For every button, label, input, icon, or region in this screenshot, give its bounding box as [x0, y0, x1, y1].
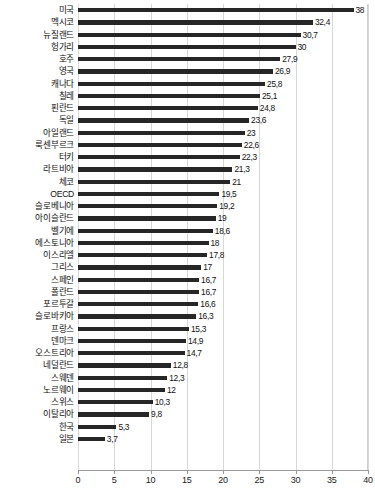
bar-row: 덴마크14,9	[0, 335, 375, 347]
bar	[78, 82, 265, 86]
value-label: 38	[356, 4, 365, 16]
category-label: 독일	[59, 114, 74, 126]
bar	[78, 69, 273, 73]
category-label: 뉴질랜드	[43, 29, 74, 41]
bar-row: 슬로베니아19,2	[0, 200, 375, 212]
bar	[78, 131, 245, 135]
value-label: 14,9	[188, 335, 203, 347]
category-label: 포르투갈	[43, 298, 74, 310]
category-label: 칠레	[59, 90, 74, 102]
x-axis-tick-label: 35	[327, 475, 337, 485]
bar-row: 핀란드24,8	[0, 102, 375, 114]
category-label: 아일랜드	[43, 127, 74, 139]
value-label: 27,9	[282, 53, 297, 65]
bar	[78, 437, 105, 441]
category-label: 덴마크	[51, 335, 74, 347]
category-label: 그리스	[51, 261, 74, 273]
value-label: 32,4	[315, 16, 330, 28]
bar-row: 영국26,9	[0, 65, 375, 77]
bar-row: 스위스10,3	[0, 396, 375, 408]
category-label: 슬로바키아	[35, 310, 74, 322]
bar-row: 미국38	[0, 4, 375, 16]
bar-row: 아이슬란드19	[0, 212, 375, 224]
value-label: 12	[167, 384, 176, 396]
value-label: 5,3	[118, 421, 129, 433]
x-axis-tick-label: 40	[363, 475, 373, 485]
category-label: 아이슬란드	[35, 212, 74, 224]
bar-row: 폴란드16,7	[0, 286, 375, 298]
bar-row: 멕시코32,4	[0, 16, 375, 28]
category-label: 한국	[59, 421, 74, 433]
category-label: 핀란드	[51, 102, 74, 114]
bar	[78, 57, 280, 61]
bar	[78, 265, 201, 269]
value-label: 18	[211, 237, 220, 249]
x-axis-tick	[296, 470, 297, 474]
bar-row: 네덜란드12,8	[0, 359, 375, 371]
bar-row: 체코21	[0, 176, 375, 188]
bar	[78, 388, 165, 392]
bar-row: 슬로바키아16,3	[0, 310, 375, 322]
bar	[78, 302, 198, 306]
bar-row: 일본3,7	[0, 433, 375, 445]
bar-row: 이스라엘17,8	[0, 249, 375, 261]
bar	[78, 143, 242, 147]
value-label: 17	[203, 261, 212, 273]
bar	[78, 253, 207, 257]
bar	[78, 118, 249, 122]
bar	[78, 363, 171, 367]
category-label: 캐나다	[51, 78, 74, 90]
value-label: 22,3	[242, 151, 257, 163]
value-label: 12,3	[169, 372, 184, 384]
x-axis-tick	[368, 470, 369, 474]
x-axis-tick-label: 5	[112, 475, 117, 485]
category-label: 노르웨이	[43, 384, 74, 396]
bar-row: 터키22,3	[0, 151, 375, 163]
value-label: 19,2	[219, 200, 234, 212]
x-axis-tick	[78, 470, 79, 474]
bar-row: 호주27,9	[0, 53, 375, 65]
value-label: 14,7	[187, 347, 202, 359]
x-axis-tick-label: 10	[146, 475, 156, 485]
x-axis-tick-label: 0	[76, 475, 81, 485]
bar-row: 포르투갈16,6	[0, 298, 375, 310]
value-label: 23,6	[251, 114, 266, 126]
value-label: 16,6	[200, 298, 215, 310]
category-label: 룩센부르크	[35, 139, 74, 151]
x-axis-tick	[259, 470, 260, 474]
x-axis-tick-label: 20	[218, 475, 228, 485]
bar	[78, 45, 296, 49]
bar	[78, 204, 217, 208]
bar	[78, 33, 301, 37]
value-label: 25,1	[262, 90, 277, 102]
bar-row: 에스토니아18	[0, 237, 375, 249]
bar-row: 헝가리30	[0, 41, 375, 53]
value-label: 30,7	[303, 29, 318, 41]
x-axis-tick-label: 15	[182, 475, 192, 485]
bar	[78, 216, 216, 220]
bar	[78, 155, 240, 159]
bar	[78, 339, 186, 343]
category-label: 일본	[59, 433, 74, 445]
value-label: 12,8	[173, 359, 188, 371]
bar-row: 아일랜드23	[0, 127, 375, 139]
bar	[78, 314, 196, 318]
bar-row: 오스트리아14,7	[0, 347, 375, 359]
category-label: 멕시코	[51, 16, 74, 28]
category-label: 라트비아	[43, 163, 74, 175]
bar	[78, 229, 213, 233]
value-label: 3,7	[107, 433, 118, 445]
category-label: 프랑스	[51, 323, 74, 335]
bar-row: 스페인16,7	[0, 274, 375, 286]
value-label: 15,3	[191, 323, 206, 335]
x-axis-tick	[114, 470, 115, 474]
value-label: 10,3	[155, 396, 170, 408]
bar	[78, 94, 260, 98]
bar-row: 라트비아21,3	[0, 163, 375, 175]
category-label: 이스라엘	[43, 249, 74, 261]
bar-row: 벨기에18,6	[0, 225, 375, 237]
value-label: 16,7	[201, 274, 216, 286]
value-label: 22,6	[244, 139, 259, 151]
value-label: 21,3	[234, 163, 249, 175]
x-axis-tick	[151, 470, 152, 474]
